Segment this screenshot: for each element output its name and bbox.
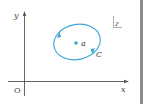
x-axis-label: x [121, 85, 126, 94]
point-a-label: a [81, 39, 86, 48]
y-axis-arrow-icon [23, 11, 26, 16]
point-a-marker [74, 41, 78, 45]
x-axis-arrow-icon [124, 80, 129, 83]
origin-label: O [14, 86, 21, 95]
y-axis [23, 11, 26, 96]
plane-z-label: z [114, 20, 119, 28]
contour-direction-arrow-icon [91, 48, 96, 54]
complex-plane-diagram: y x O a C z [0, 0, 145, 104]
y-axis-label: y [13, 11, 19, 20]
x-axis [8, 80, 129, 83]
contour-c-label: C [96, 50, 102, 59]
page-edge-bar [140, 0, 143, 104]
